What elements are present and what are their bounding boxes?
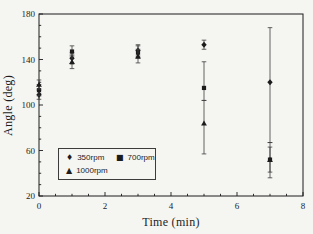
chart-plot: 024682060100140180: [0, 0, 313, 234]
legend-label-350rpm: 350rpm: [77, 153, 104, 162]
legend-label-1000rpm: 1000rpm: [76, 166, 108, 175]
legend: ♦ 350rpm ■ 700rpm ▲ 1000rpm: [58, 148, 156, 180]
x-axis-title: Time (min): [39, 215, 303, 230]
legend-item-1000rpm: ▲ 1000rpm: [66, 165, 116, 176]
diamond-marker: [267, 79, 272, 85]
legend-item-350rpm: ♦ 350rpm: [66, 152, 116, 163]
x-tick-label: 6: [235, 201, 240, 211]
y-tick-label: 100: [22, 100, 36, 110]
x-tick-label: 2: [103, 201, 108, 211]
x-tick-label: 0: [37, 201, 42, 211]
y-tick-label: 180: [22, 9, 36, 19]
diamond-marker: [201, 42, 206, 48]
tick-labels: 024682060100140180: [22, 9, 306, 211]
square-marker: [70, 49, 74, 53]
triangle-marker-icon: ▲: [66, 167, 72, 175]
x-tick-label: 4: [169, 201, 174, 211]
triangle-marker: [69, 59, 75, 64]
error-bar: [202, 62, 207, 101]
triangle-marker: [201, 120, 207, 125]
series-350rpm: [36, 28, 272, 143]
y-axis-title: Angle (deg): [1, 46, 16, 166]
legend-label-700rpm: 700rpm: [128, 153, 155, 162]
y-tick-label: 60: [26, 146, 36, 156]
y-tick-label: 20: [26, 191, 36, 201]
y-tick-label: 140: [22, 55, 36, 65]
figure: 024682060100140180 Angle (deg) Time (min…: [0, 0, 313, 234]
square-marker-icon: ■: [116, 154, 124, 162]
legend-item-700rpm: ■ 700rpm: [116, 152, 155, 163]
diamond-marker-icon: ♦: [66, 154, 73, 162]
x-tick-label: 8: [301, 201, 306, 211]
error-bar: [202, 100, 207, 153]
square-marker: [202, 86, 206, 90]
